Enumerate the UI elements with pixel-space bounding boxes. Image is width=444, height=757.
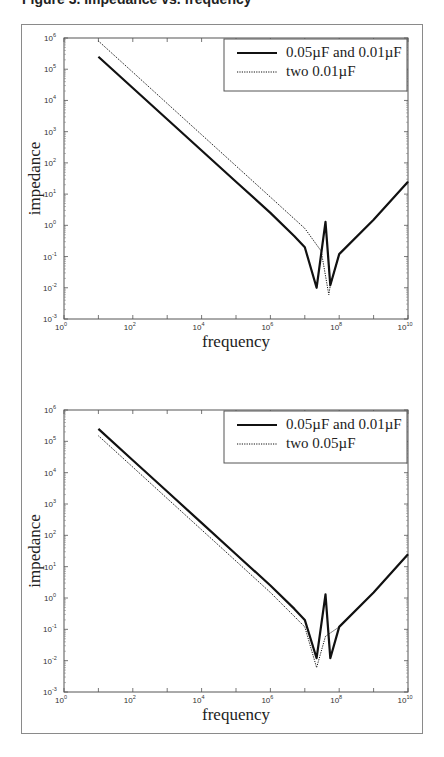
chart-2: 100102104106108101010-310-210-1100101102… (25, 404, 413, 724)
y-tick-label: 102 (44, 529, 56, 540)
x-axis-title: frequency (202, 332, 270, 351)
y-tick-label: 101 (44, 561, 56, 572)
x-tick-label: 106 (261, 321, 273, 332)
legend: 0.05µF and 0.01µFtwo 0.01µF (224, 39, 407, 91)
y-axis-title: impedance (25, 142, 44, 216)
x-tick-label: 106 (261, 694, 273, 705)
y-tick-label: 100 (44, 219, 56, 230)
x-tick-label: 108 (330, 694, 342, 705)
y-tick-label: 103 (44, 126, 56, 137)
y-tick-label: 102 (44, 157, 56, 168)
legend-label: 0.05µF and 0.01µF (286, 44, 402, 60)
y-tick-label: 10-2 (43, 282, 57, 293)
y-tick-label: 100 (44, 592, 56, 603)
y-axis-title: impedance (25, 514, 44, 588)
x-tick-label: 1010 (397, 694, 412, 705)
y-tick-label: 10-1 (43, 623, 57, 634)
y-tick-label: 103 (44, 498, 56, 509)
y-tick-label: 105 (44, 63, 56, 74)
y-tick-label: 106 (44, 404, 56, 415)
legend: 0.05µF and 0.01µFtwo 0.05µF (224, 411, 407, 463)
x-tick-label: 100 (55, 694, 67, 705)
chart-1: 100102104106108101010-310-210-1100101102… (25, 32, 413, 351)
y-tick-label: 10-2 (43, 655, 57, 666)
y-tick-label: 10-1 (43, 251, 57, 262)
x-tick-label: 102 (124, 321, 136, 332)
x-tick-label: 100 (55, 321, 67, 332)
figure-svg: 100102104106108101010-310-210-1100101102… (0, 0, 444, 757)
x-tick-label: 104 (193, 694, 205, 705)
x-tick-label: 104 (193, 321, 205, 332)
legend-label: two 0.01µF (286, 63, 356, 79)
y-tick-label: 106 (44, 32, 56, 43)
y-tick-label: 101 (44, 188, 56, 199)
y-tick-label: 104 (44, 467, 56, 478)
legend-label: two 0.05µF (286, 435, 356, 451)
x-axis-title: frequency (202, 705, 270, 724)
x-tick-label: 108 (330, 321, 342, 332)
x-tick-label: 102 (124, 694, 136, 705)
y-tick-label: 105 (44, 435, 56, 446)
y-tick-label: 104 (44, 94, 56, 105)
legend-label: 0.05µF and 0.01µF (286, 416, 402, 432)
x-tick-label: 1010 (397, 321, 412, 332)
